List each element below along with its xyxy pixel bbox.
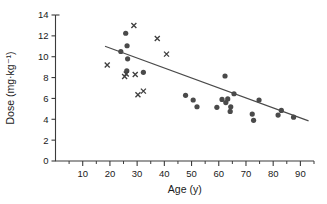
data-point-circle [231, 91, 236, 96]
data-point-circle [125, 56, 130, 61]
x-tick-label: 20 [105, 168, 116, 179]
data-point-circle [214, 105, 219, 110]
x-tick-label: 10 [77, 168, 88, 179]
y-tick-label: 8 [43, 72, 48, 83]
x-axis-title: Age (y) [168, 183, 202, 195]
x-tick-label: 80 [268, 168, 279, 179]
scatter-plot-figure: 02468101214102030405060708090Age (y)Dose… [0, 0, 327, 204]
data-point-circle [222, 73, 227, 78]
y-axis-title: Dose (mg·kg⁻¹) [4, 51, 16, 124]
x-tick-label: 40 [159, 168, 170, 179]
y-tick-label: 2 [43, 135, 48, 146]
data-point-circle [251, 118, 256, 123]
data-point-circle [124, 43, 129, 48]
data-point-circle [191, 97, 196, 102]
data-point-circle [225, 96, 230, 101]
y-tick-label: 12 [38, 30, 49, 41]
data-point-cross [133, 72, 138, 77]
data-point-circle [291, 115, 296, 120]
x-tick-label: 60 [213, 168, 224, 179]
y-tick-label: 10 [38, 51, 49, 62]
data-point-cross [164, 52, 169, 57]
data-point-circle [256, 97, 261, 102]
data-point-circle [123, 31, 128, 36]
x-tick-label: 30 [132, 168, 143, 179]
data-point-cross [105, 63, 110, 68]
data-point-circle [118, 49, 123, 54]
data-point-circle [250, 111, 255, 116]
data-point-cross [141, 89, 146, 94]
data-point-circle [275, 113, 280, 118]
data-point-circle [228, 109, 233, 114]
axis-spines [56, 15, 315, 161]
x-tick-label: 50 [186, 168, 197, 179]
data-point-cross [131, 23, 136, 28]
y-tick-label: 6 [43, 93, 48, 104]
data-point-circle [228, 104, 233, 109]
regression-line [105, 46, 309, 121]
data-point-cross [155, 36, 160, 41]
data-point-cross [135, 92, 140, 97]
data-point-circle [141, 70, 146, 75]
y-tick-label: 14 [38, 9, 49, 20]
x-tick-label: 70 [241, 168, 252, 179]
data-point-circle [183, 93, 188, 98]
y-tick-label: 0 [43, 155, 48, 166]
data-point-circle [194, 104, 199, 109]
data-point-circle [279, 108, 284, 113]
x-tick-label: 90 [295, 168, 306, 179]
y-tick-label: 4 [43, 114, 48, 125]
chart-canvas: 02468101214102030405060708090Age (y)Dose… [0, 0, 327, 204]
